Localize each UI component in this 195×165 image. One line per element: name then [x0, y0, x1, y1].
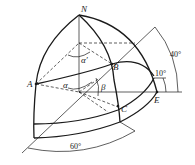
meridian-left-arc	[34, 15, 79, 138]
label-40-deg: 40°	[170, 50, 181, 59]
dimension-10-arc	[163, 78, 166, 92]
label-C: C	[121, 104, 128, 114]
label-A: A	[26, 79, 33, 89]
latitude-arc-lower	[34, 92, 157, 138]
latitude-arc-AB	[36, 62, 154, 84]
point-A-dot	[35, 83, 38, 86]
spherical-diagram: N A B C E α′ α β 40° 10° 60°	[0, 0, 195, 165]
point-C-dot	[117, 105, 120, 108]
diagonal-axis	[22, 27, 155, 153]
dashed-A-to-center	[36, 84, 79, 92]
dimension-60-arc	[28, 131, 135, 152]
dimension-60-leader	[120, 122, 135, 131]
dimension-40-arc	[155, 27, 178, 92]
label-alpha-prime: α′	[81, 55, 89, 65]
label-B: B	[113, 62, 119, 72]
label-10-deg: 10°	[155, 69, 166, 78]
label-E: E	[153, 95, 160, 105]
dashed-A-to-top	[36, 43, 79, 84]
point-E-dot	[156, 91, 159, 94]
label-N: N	[80, 4, 88, 14]
label-alpha: α	[63, 80, 68, 90]
label-beta: β	[100, 82, 106, 92]
label-60-deg: 60°	[70, 142, 81, 151]
dashed-center-to-lower	[79, 92, 108, 112]
